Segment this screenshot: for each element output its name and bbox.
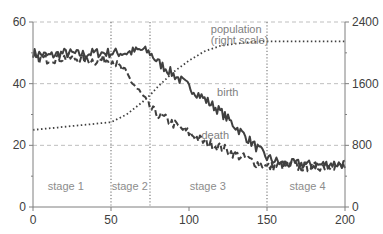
series-annotation: death xyxy=(201,129,229,141)
chart-container: stage 1stage 2stage 3stage 4 02040600800… xyxy=(0,0,383,234)
stage-label: stage 1 xyxy=(48,180,84,192)
x-tick-label: 200 xyxy=(335,213,355,227)
x-tick-label: 150 xyxy=(257,213,277,227)
stage-labels: stage 1stage 2stage 3stage 4 xyxy=(48,180,326,192)
stage-label: stage 4 xyxy=(290,180,326,192)
y2-tick-label: 2400 xyxy=(352,15,379,29)
y2-tick-label: 0 xyxy=(352,200,359,214)
y-tick-label: 20 xyxy=(13,138,27,152)
series-annotation: birth xyxy=(217,86,238,98)
y2-tick-label: 1600 xyxy=(352,77,379,91)
data-series xyxy=(33,41,345,171)
y-tick-label: 40 xyxy=(13,77,27,91)
axes: 0204060080016002400050100150200 xyxy=(13,15,379,227)
y-tick-label: 0 xyxy=(19,200,26,214)
y2-tick-label: 800 xyxy=(352,138,372,152)
stage-label: stage 2 xyxy=(112,180,148,192)
stage-label: stage 3 xyxy=(190,180,226,192)
series-annotation: (right scale) xyxy=(211,34,268,46)
series-death-line xyxy=(33,53,345,171)
x-tick-label: 0 xyxy=(30,213,37,227)
series-annotation: population xyxy=(211,23,262,35)
series-birth-line xyxy=(33,47,345,169)
x-tick-label: 50 xyxy=(104,213,118,227)
y-tick-label: 60 xyxy=(13,15,27,29)
x-tick-label: 100 xyxy=(179,213,199,227)
chart-svg: stage 1stage 2stage 3stage 4 02040600800… xyxy=(0,0,383,234)
series-annotations: birthdeathpopulation(right scale) xyxy=(201,23,268,141)
